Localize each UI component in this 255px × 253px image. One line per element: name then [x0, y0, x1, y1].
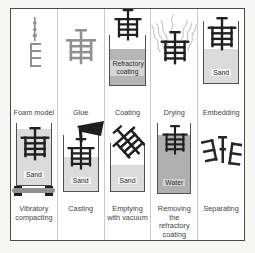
diagram-row-2: Sand Vibratory compacting [11, 121, 244, 240]
step-label-drying: Drying [151, 109, 197, 118]
compacting-cluster-icon [19, 127, 51, 162]
step-cell-coating: Refractory coating Coating [104, 9, 151, 121]
glue-art [58, 9, 104, 95]
embedding-sand-fill: Sand [204, 49, 238, 83]
embedding-sand-label: Sand [211, 69, 231, 76]
step-label-embedding: Embedding [198, 109, 244, 118]
step-cell-foam-model: Foam model [11, 9, 57, 121]
refractory-container: Refractory coating [109, 35, 147, 86]
step-label-coating: Coating [105, 109, 151, 118]
separating-art [198, 121, 244, 203]
step-cell-casting: Sand Casting [57, 121, 104, 240]
step-cell-emptying: Sand Emptying with vacuum [104, 121, 151, 240]
compacting-sand-label: Sand [24, 171, 44, 178]
foam-model-art [11, 9, 57, 95]
glue-cluster-icon [64, 29, 98, 66]
step-cell-removing-coating: Water Removing the refractory coating [150, 121, 197, 240]
diagram-row-1: Foam model Glue [11, 9, 244, 121]
step-label-foam-model: Foam model [11, 109, 57, 118]
coating-cluster-icon [113, 9, 143, 42]
casting-sand-label: Sand [71, 177, 91, 184]
step-cell-embedding: Sand Embedding [197, 9, 244, 121]
process-diagram-frame: Foam model Glue [10, 8, 245, 241]
step-label-vibratory-compacting: Vibratory compacting [11, 205, 57, 222]
drying-cluster-icon [159, 31, 191, 66]
removing-art: Water [151, 121, 197, 203]
step-label-casting: Casting [58, 205, 104, 214]
emptying-sand-label: Sand [118, 177, 138, 184]
step-cell-vibratory-compacting: Sand Vibratory compacting [11, 121, 57, 240]
step-cell-separating: Separating [197, 121, 244, 240]
step-label-separating: Separating [198, 205, 244, 214]
water-bath-icon [161, 125, 189, 156]
foam-model-icon [23, 17, 47, 79]
separated-parts-icon [200, 135, 242, 173]
casting-ladle-icon [70, 121, 105, 145]
coating-art: Refractory coating [105, 9, 151, 95]
refractory-fill: Refractory coating [110, 49, 146, 85]
step-label-glue: Glue [58, 109, 104, 118]
vibratory-art: Sand [11, 121, 57, 203]
embedding-art: Sand [198, 9, 244, 95]
refractory-coating-label: Refractory coating [110, 60, 144, 76]
casting-art: Sand [58, 121, 104, 203]
step-cell-drying: Drying [150, 9, 197, 121]
embedding-cluster-icon [206, 17, 238, 52]
emptying-art: Sand [105, 121, 151, 203]
emptying-sand-fill: Sand [111, 165, 145, 191]
step-label-removing-coating: Removing the refractory coating [151, 205, 197, 239]
step-label-emptying: Emptying with vacuum [105, 205, 151, 222]
drying-art [151, 9, 197, 95]
water-label: Water [163, 179, 185, 186]
step-cell-glue: Glue [57, 9, 104, 121]
